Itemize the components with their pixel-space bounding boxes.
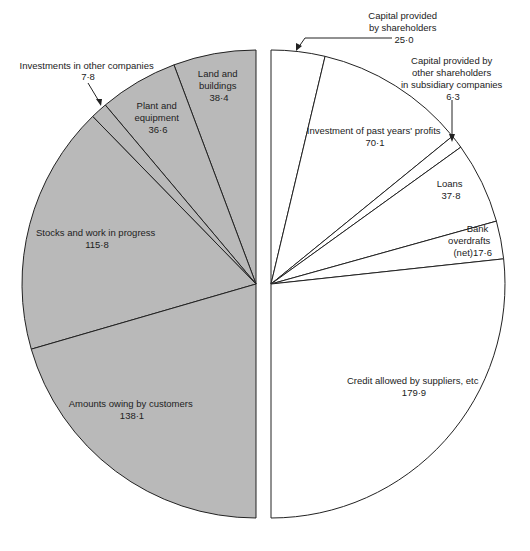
label-capital-subsidiary: Capital provided by other shareholders i… xyxy=(401,55,505,102)
slice-credit-allowed-by-suppliers-etc xyxy=(271,259,505,518)
arrow-capital xyxy=(298,38,392,48)
arrowhead-investments xyxy=(96,99,102,106)
label-capital-shareholders: Capital provided by shareholders 25·0 xyxy=(368,10,439,45)
split-pie-chart: Land and buildings 38·4 Plant and equipm… xyxy=(0,0,530,551)
funds-half-pie xyxy=(271,50,505,518)
label-investments-other-companies: Investments in other companies 7·8 xyxy=(20,60,157,82)
